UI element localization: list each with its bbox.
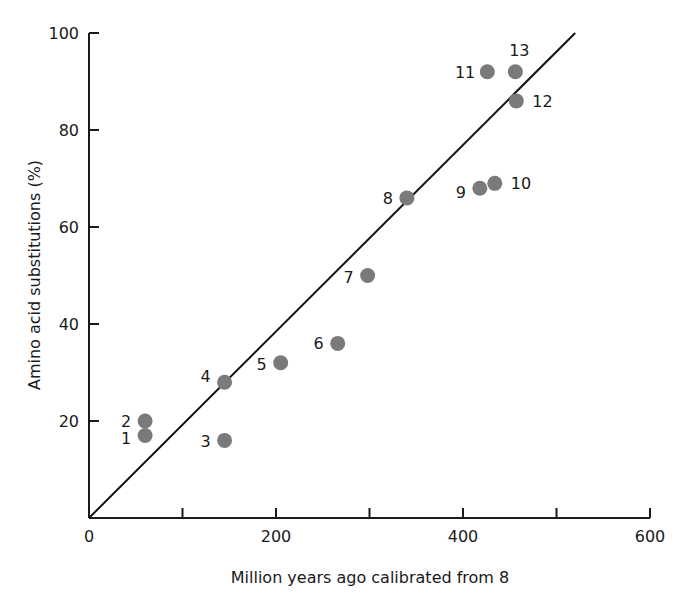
y-tick-label: 60 bbox=[59, 218, 79, 237]
data-point bbox=[508, 64, 523, 79]
point-label: 2 bbox=[121, 412, 131, 431]
data-point bbox=[472, 181, 487, 196]
x-tick-label: 400 bbox=[448, 527, 479, 546]
data-point bbox=[487, 176, 502, 191]
y-tick-label: 20 bbox=[59, 412, 79, 431]
y-tick-label: 80 bbox=[59, 121, 79, 140]
point-label: 5 bbox=[256, 355, 266, 374]
point-label: 4 bbox=[200, 367, 210, 386]
data-point bbox=[273, 355, 288, 370]
x-tick-label: 600 bbox=[635, 527, 666, 546]
x-tick-label: 0 bbox=[84, 527, 94, 546]
point-label: 8 bbox=[383, 189, 393, 208]
x-tick-label: 200 bbox=[261, 527, 292, 546]
point-label: 6 bbox=[314, 334, 324, 353]
x-axis-title: Million years ago calibrated from 8 bbox=[231, 568, 509, 587]
data-point bbox=[138, 428, 153, 443]
data-point bbox=[360, 268, 375, 283]
point-label: 3 bbox=[200, 432, 210, 451]
data-point bbox=[480, 64, 495, 79]
data-point bbox=[217, 433, 232, 448]
point-label: 13 bbox=[509, 41, 529, 60]
y-tick-label: 40 bbox=[59, 315, 79, 334]
data-point bbox=[509, 93, 524, 108]
regression-line bbox=[89, 33, 575, 518]
point-label: 10 bbox=[511, 174, 531, 193]
y-axis-title: Amino acid substitutions (%) bbox=[25, 160, 44, 390]
point-label: 9 bbox=[456, 183, 466, 202]
data-point bbox=[399, 190, 414, 205]
point-label: 11 bbox=[455, 63, 475, 82]
data-point bbox=[138, 414, 153, 429]
y-tick-label: 100 bbox=[48, 24, 79, 43]
point-label: 1 bbox=[121, 429, 131, 448]
point-label: 12 bbox=[532, 92, 552, 111]
scatter-chart: 020040060020406080100 12345678910111213 … bbox=[0, 0, 688, 612]
point-label: 7 bbox=[343, 268, 353, 287]
data-point bbox=[330, 336, 345, 351]
data-point bbox=[217, 375, 232, 390]
axes: 020040060020406080100 bbox=[48, 24, 665, 546]
fit-line bbox=[89, 33, 575, 518]
data-points: 12345678910111213 bbox=[121, 41, 553, 452]
